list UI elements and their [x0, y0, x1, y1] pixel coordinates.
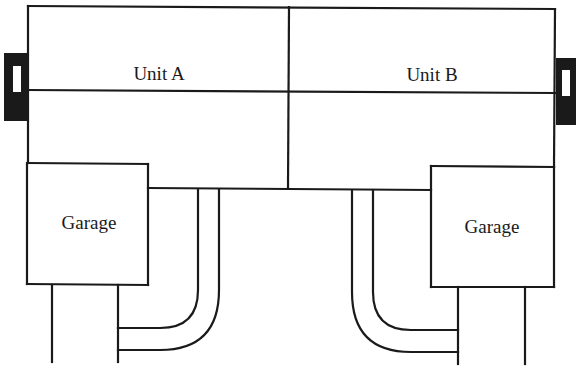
duplex-site-plan: Unit A Unit B Garage Garage [0, 0, 576, 377]
side-fixture-right [556, 58, 576, 125]
garage-a-label: Garage [62, 212, 117, 234]
building-outline [28, 6, 555, 190]
site-plan-drawing [0, 0, 576, 377]
garage-a-apron [52, 285, 118, 362]
driveway-b [352, 190, 458, 352]
unit-b-label: Unit B [406, 64, 457, 86]
driveway-a [118, 189, 219, 350]
garage-b-label: Garage [465, 216, 520, 238]
side-fixture-left [4, 53, 28, 121]
unit-a-label: Unit A [133, 63, 184, 85]
garage-b-apron [458, 287, 525, 364]
